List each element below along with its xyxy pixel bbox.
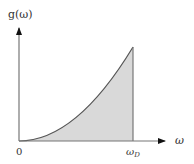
debye-dos-chart: g(ω) ω 0 ωD <box>0 0 194 164</box>
cutoff-tick-label: ωD <box>126 146 140 159</box>
shaded-area <box>19 47 133 141</box>
origin-tick-label: 0 <box>16 146 22 157</box>
cutoff-label-main: ω <box>126 146 134 157</box>
x-axis-label: ω <box>175 134 184 147</box>
y-axis-label: g(ω) <box>8 8 33 21</box>
cutoff-label-sub: D <box>133 151 140 159</box>
